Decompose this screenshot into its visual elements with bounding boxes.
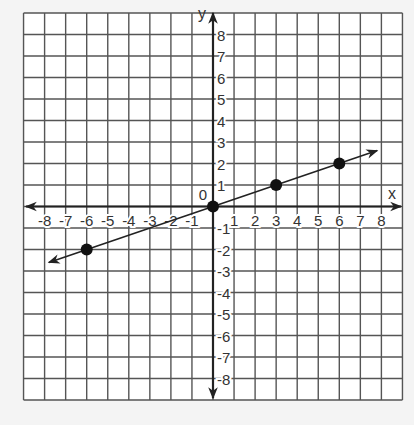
x-tick-label: 7 — [356, 212, 364, 229]
data-point — [333, 158, 345, 170]
y-tick-label: 6 — [217, 70, 225, 87]
y-tick-label: 3 — [217, 134, 225, 151]
data-point — [81, 244, 93, 256]
y-tick-label: -7 — [217, 349, 230, 366]
y-tick-label: 1 — [217, 177, 225, 194]
origin-label: 0 — [199, 186, 207, 203]
x-tick-label: 1 — [230, 212, 238, 229]
y-tick-label: -2 — [217, 242, 230, 259]
x-tick-label: 6 — [335, 212, 343, 229]
x-tick-label: 5 — [314, 212, 322, 229]
x-tick-label: 3 — [272, 212, 280, 229]
y-tick-label: -1 — [217, 220, 230, 237]
y-axis-label: y — [198, 5, 206, 22]
y-tick-label: -3 — [217, 263, 230, 280]
y-tick-label: -8 — [217, 371, 230, 388]
data-point — [270, 179, 282, 191]
y-tick-label: 5 — [217, 91, 225, 108]
y-tick-label: -4 — [217, 285, 230, 302]
coordinate-plane: -8-7-6-5-4-3-2-11234567887654321-1-2-3-4… — [0, 0, 414, 425]
x-tick-label: 4 — [293, 212, 301, 229]
y-tick-label: 8 — [217, 27, 225, 44]
y-tick-label: -6 — [217, 328, 230, 345]
x-tick-label: 2 — [251, 212, 259, 229]
y-tick-label: 4 — [217, 113, 225, 130]
x-tick-label: 8 — [377, 212, 385, 229]
x-tick-label: -8 — [38, 212, 51, 229]
x-tick-label: -5 — [101, 212, 114, 229]
y-tick-label: 2 — [217, 156, 225, 173]
y-tick-label: -5 — [217, 306, 230, 323]
x-axis-label: x — [388, 185, 396, 202]
data-point — [207, 201, 219, 213]
x-tick-label: -7 — [59, 212, 72, 229]
y-tick-label: 7 — [217, 48, 225, 65]
x-tick-label: -6 — [80, 212, 93, 229]
x-tick-label: -4 — [122, 212, 135, 229]
